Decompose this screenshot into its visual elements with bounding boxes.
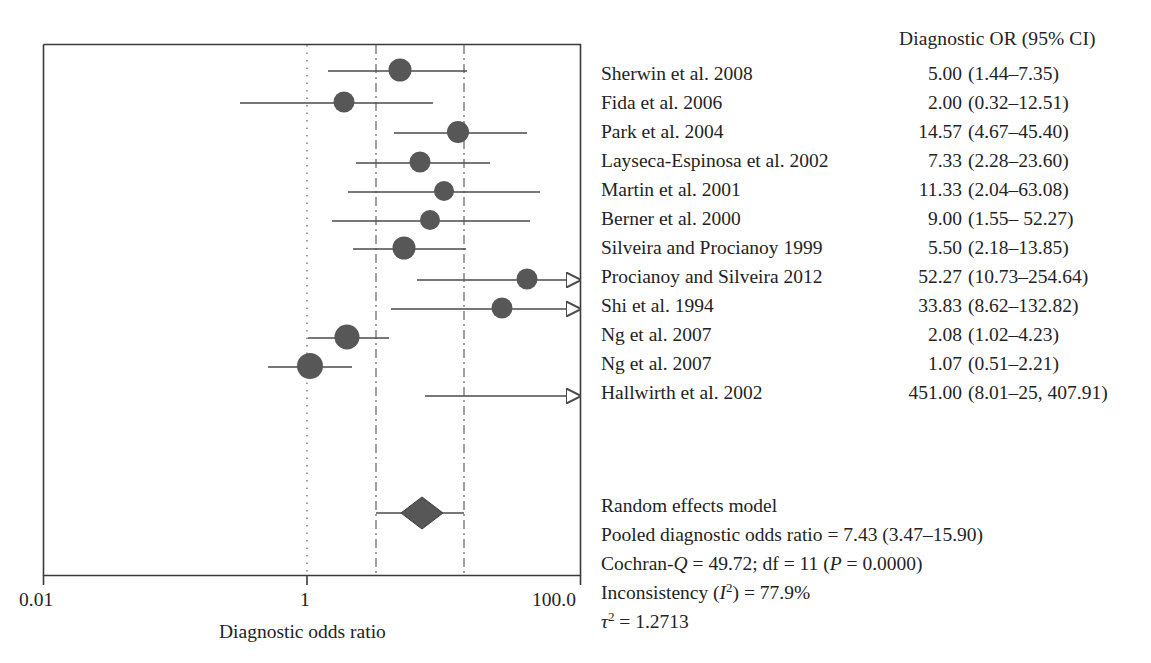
summary-pooled-or: Pooled diagnostic odds ratio = 7.43 (3.4… xyxy=(601,524,983,546)
or-confidence-interval: (2.04–63.08) xyxy=(968,179,1069,201)
study-label: Silveira and Procianoy 1999 xyxy=(601,237,823,259)
study-label: Park et al. 2004 xyxy=(601,121,723,143)
study-label: Shi et al. 1994 xyxy=(601,295,714,317)
or-confidence-interval: (0.51–2.21) xyxy=(968,353,1059,375)
tau-rest: = 1.2713 xyxy=(614,611,688,632)
column-header-diagnostic-or: Diagnostic OR (95% CI) xyxy=(899,28,1096,50)
inconsistency-rest: ) = 77.9% xyxy=(733,582,811,603)
study-row-marker xyxy=(353,237,466,260)
study-label: Ng et al. 2007 xyxy=(601,324,711,346)
study-label: Fida et al. 2006 xyxy=(601,92,722,114)
p-rest: = 0.0000) xyxy=(842,553,923,574)
study-row-marker xyxy=(394,121,527,143)
summary-cochran-q: Cochran-Q = 49.72; df = 11 (P = 0.0000) xyxy=(601,553,923,575)
or-estimate: 5.00 xyxy=(888,63,962,85)
or-confidence-interval: (2.18–13.85) xyxy=(968,237,1069,259)
or-estimate: 52.27 xyxy=(888,266,962,288)
or-confidence-interval: (2.28–23.60) xyxy=(968,150,1069,172)
p-symbol: P xyxy=(830,553,842,574)
cochran-prefix: Cochran- xyxy=(601,553,674,574)
study-label: Sherwin et al. 2008 xyxy=(601,63,753,85)
or-estimate: 11.33 xyxy=(888,179,962,201)
study-rows xyxy=(240,59,566,397)
axis-ticks xyxy=(44,576,581,586)
study-row-marker xyxy=(417,269,566,290)
axis-tick-label-mid: 1 xyxy=(300,589,310,611)
cochran-q-symbol: Q xyxy=(674,553,688,574)
or-estimate: 2.08 xyxy=(888,324,962,346)
or-estimate: 14.57 xyxy=(888,121,962,143)
or-estimate: 2.00 xyxy=(888,92,962,114)
study-label: Layseca-Espinosa et al. 2002 xyxy=(601,150,828,172)
or-confidence-interval: (4.67–45.40) xyxy=(968,121,1069,143)
study-label: Ng et al. 2007 xyxy=(601,353,711,375)
or-estimate: 33.83 xyxy=(888,295,962,317)
or-estimate: 1.07 xyxy=(888,353,962,375)
or-confidence-interval: (1.44–7.35) xyxy=(968,63,1059,85)
summary-model-label: Random effects model xyxy=(601,495,777,517)
study-label: Hallwirth et al. 2002 xyxy=(601,382,762,404)
cochran-rest: = 49.72; df = 11 ( xyxy=(688,553,830,574)
study-label: Martin et al. 2001 xyxy=(601,179,741,201)
or-confidence-interval: (10.73–254.64) xyxy=(968,266,1088,288)
or-estimate: 5.50 xyxy=(888,237,962,259)
or-estimate: 9.00 xyxy=(888,208,962,230)
inconsistency-prefix: Inconsistency ( xyxy=(601,582,720,603)
study-row-marker xyxy=(391,298,566,319)
study-row-marker xyxy=(268,353,352,379)
axis-tick-label-max: 100.0 xyxy=(532,589,576,611)
study-row-marker xyxy=(308,325,389,350)
summary-tau-squared: τ2 = 1.2713 xyxy=(601,611,689,633)
study-label: Procianoy and Silveira 2012 xyxy=(601,266,823,288)
or-estimate: 7.33 xyxy=(888,150,962,172)
forest-plot-figure: Diagnostic OR (95% CI) Sherwin et al. 20… xyxy=(0,0,1151,663)
or-confidence-interval: (8.01–25, 407.91) xyxy=(968,382,1108,404)
pooled-summary-diamond xyxy=(376,497,464,529)
or-confidence-interval: (1.55– 52.27) xyxy=(968,208,1074,230)
or-estimate: 451.00 xyxy=(888,382,962,404)
summary-inconsistency: Inconsistency (I2) = 77.9% xyxy=(601,582,810,604)
axis-title-x: Diagnostic odds ratio xyxy=(219,621,386,643)
or-confidence-interval: (8.62–132.82) xyxy=(968,295,1079,317)
study-row-marker xyxy=(240,92,433,113)
tau-symbol: τ xyxy=(601,611,608,632)
or-confidence-interval: (1.02–4.23) xyxy=(968,324,1059,346)
or-confidence-interval: (0.32–12.51) xyxy=(968,92,1069,114)
study-row-marker xyxy=(328,59,467,82)
study-row-marker xyxy=(348,181,540,201)
study-label: Berner et al. 2000 xyxy=(601,208,741,230)
study-row-marker xyxy=(332,210,530,230)
axis-tick-label-min: 0.01 xyxy=(19,589,53,611)
